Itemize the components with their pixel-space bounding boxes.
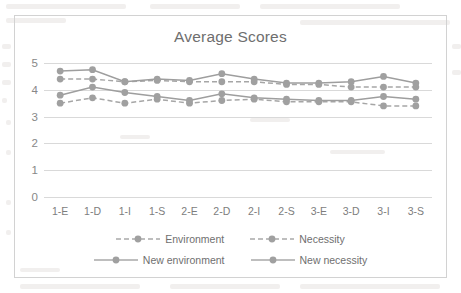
legend-swatch-icon [94, 254, 138, 266]
x-axis-label: 1-I [119, 205, 131, 217]
data-point-marker [412, 96, 419, 103]
legend-label: Environment [165, 233, 224, 245]
x-axis-label: 3-D [343, 205, 360, 217]
y-axis-label: 0 [32, 191, 38, 203]
background-text-bleed [2, 98, 7, 103]
legend-row-bottom: New environmentNew necessity [15, 249, 446, 270]
data-point-marker [57, 92, 64, 99]
series-necessity [57, 94, 419, 109]
data-point-marker [57, 68, 64, 75]
series-line [60, 87, 416, 100]
background-text-bleed [6, 200, 11, 205]
background-text-bleed [260, 4, 400, 9]
x-axis-label: 3-I [377, 205, 389, 217]
chart-title: Average Scores [15, 28, 446, 46]
background-text-bleed [170, 284, 280, 289]
data-point-marker [380, 93, 387, 100]
data-point-marker [412, 102, 419, 109]
background-text-bleed [2, 62, 11, 67]
background-text-bleed [6, 150, 11, 155]
gridline [44, 197, 432, 198]
data-point-marker [89, 94, 96, 101]
x-axis-label: 2-I [248, 205, 260, 217]
data-point-marker [218, 78, 225, 85]
legend-swatch-icon [251, 254, 295, 266]
data-point-marker [89, 66, 96, 73]
legend-label: Necessity [299, 233, 345, 245]
x-axis-label: 2-D [213, 205, 230, 217]
y-axis-label: 2 [32, 137, 38, 149]
background-text-bleed [6, 230, 11, 235]
data-point-marker [154, 76, 161, 83]
x-axis-label: 1-E [52, 205, 68, 217]
data-point-marker [121, 78, 128, 85]
legend-item-environment[interactable]: Environment [116, 233, 224, 245]
data-point-marker [283, 96, 290, 103]
plot-area: 012345 1-E1-D1-I1-S2-E2-D2-I2-S3-E3-D3-I… [44, 63, 432, 197]
y-axis-label: 1 [32, 164, 38, 176]
data-point-marker [154, 93, 161, 100]
data-point-marker [380, 84, 387, 91]
data-point-marker [348, 78, 355, 85]
legend-label: New environment [143, 254, 225, 266]
data-point-marker [412, 80, 419, 87]
legend-swatch-icon [116, 233, 160, 245]
data-point-marker [283, 80, 290, 87]
chart-frame: Average Scores 012345 1-E1-D1-I1-S2-E2-D… [14, 15, 447, 278]
x-axis-label: 3-S [408, 205, 424, 217]
data-point-marker [121, 100, 128, 107]
data-point-marker [218, 70, 225, 77]
legend-item-new-environment[interactable]: New environment [94, 254, 225, 266]
y-axis-label: 3 [32, 111, 38, 123]
data-point-marker [186, 77, 193, 84]
x-axis-label: 2-S [278, 205, 294, 217]
series-environment [57, 76, 419, 91]
background-text-bleed [2, 44, 11, 49]
background-text-bleed [452, 44, 461, 49]
data-point-marker [57, 76, 64, 83]
y-axis-label: 4 [32, 84, 38, 96]
legend-item-new-necessity[interactable]: New necessity [251, 254, 368, 266]
data-point-marker [218, 97, 225, 104]
x-axis-label: 1-S [149, 205, 165, 217]
legend-label: New necessity [300, 254, 368, 266]
background-text-bleed [20, 284, 140, 289]
data-point-marker [89, 84, 96, 91]
x-axis-label: 2-E [181, 205, 197, 217]
background-text-bleed [452, 70, 461, 75]
data-point-marker [57, 100, 64, 107]
background-text-bleed [6, 120, 11, 125]
background-text-bleed [2, 80, 11, 85]
data-point-marker [315, 80, 322, 87]
background-text-bleed [300, 284, 440, 289]
legend-item-necessity[interactable]: Necessity [250, 233, 345, 245]
data-point-marker [380, 73, 387, 80]
data-point-marker [380, 102, 387, 109]
series-new-environment [57, 66, 419, 86]
legend-swatch-icon [250, 233, 294, 245]
data-point-marker [121, 89, 128, 96]
data-point-marker [348, 97, 355, 104]
legend-row-top: EnvironmentNecessity [15, 228, 446, 249]
background-text-bleed [150, 4, 240, 9]
data-point-marker [315, 97, 322, 104]
x-axis-label: 3-E [311, 205, 327, 217]
data-point-marker [218, 90, 225, 97]
data-point-marker [251, 94, 258, 101]
chart-legend: EnvironmentNecessity New environmentNew … [15, 228, 446, 270]
x-axis-label: 1-D [84, 205, 101, 217]
data-point-marker [186, 97, 193, 104]
y-axis-label: 5 [32, 57, 38, 69]
data-point-marker [89, 76, 96, 83]
series-plot [44, 63, 432, 197]
data-point-marker [251, 76, 258, 83]
background-text-bleed [6, 4, 126, 9]
